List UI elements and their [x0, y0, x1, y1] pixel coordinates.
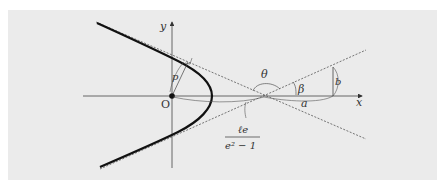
a-label: a — [301, 97, 308, 110]
a-brace — [264, 96, 333, 101]
theta-label: θ — [261, 68, 268, 81]
origin-point — [169, 93, 175, 99]
hyperbola-branch — [97, 23, 212, 167]
fraction-denominator: e² − 1 — [225, 140, 256, 151]
beta-arc — [293, 82, 296, 95]
center-distance-brace — [173, 97, 264, 102]
b-label: b — [335, 76, 341, 87]
hyperbola-diagram: y x O p θ β a b ℓe e² − 1 — [0, 0, 445, 186]
x-axis-label: x — [356, 96, 363, 109]
fraction-numerator: ℓe — [238, 124, 248, 135]
asymptote-lower — [100, 50, 366, 169]
p-label: p — [172, 71, 179, 82]
origin-label: O — [161, 98, 170, 111]
beta-label: β — [297, 83, 304, 96]
y-axis-label: y — [159, 20, 167, 33]
asymptote-upper — [96, 22, 366, 139]
